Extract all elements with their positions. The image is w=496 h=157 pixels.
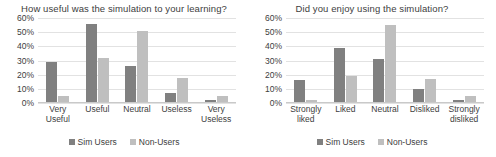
x-axis-tick-label-line: Very [38,104,78,114]
x-axis-tick-label: Stronglydisliked [444,104,484,124]
x-axis-tick-label-line: Strongly [444,104,484,114]
y-axis-tick-label: 40% [17,41,34,51]
x-axis-tick-label-line: Neutral [117,104,157,114]
legend-label: Non-Users [387,137,428,147]
x-axis-tick-label-line: Neutral [365,104,405,114]
y-axis-labels: 0%10%20%30%40%50%60% [2,18,34,103]
y-axis-tick-label: 0% [22,98,34,108]
y-axis-tick-label: 60% [17,13,34,23]
x-axis-line [38,102,236,103]
y-axis-tick-label: 40% [265,41,282,51]
x-axis-tick-label-line: Liked [326,104,366,114]
bar [294,80,305,103]
legend-label: Sim Users [326,137,365,147]
x-axis-tick-label: VeryUseful [38,104,78,124]
legend-swatch-icon [130,139,136,145]
charts-container: How useful was the simulation to your le… [0,0,496,157]
y-axis-labels: 0%10%20%30%40%50%60% [250,18,282,103]
bar [125,66,136,103]
bar-group [326,18,366,103]
x-axis-tick-label: Useful [78,104,118,124]
legend-item[interactable]: Non-Users [378,137,428,147]
x-axis-tick-label: VeryUseless [196,104,236,124]
bar [385,25,396,103]
x-axis-tick-label: Neutral [117,104,157,124]
bar [177,78,188,104]
bar [373,59,384,103]
x-axis-tick-label: Disliked [405,104,445,124]
chart-panel-usefulness: How useful was the simulation to your le… [0,0,248,157]
bar [98,58,109,103]
y-axis-tick-label: 30% [265,56,282,66]
x-axis-labels: StronglylikedLikedNeutralDislikedStrongl… [286,104,484,124]
bar [346,76,357,103]
x-axis-tick-label: Neutral [365,104,405,124]
legend-item[interactable]: Sim Users [317,137,365,147]
y-axis-tick-label: 60% [265,13,282,23]
x-axis-tick-label: Stronglyliked [286,104,326,124]
bar-group [444,18,484,103]
x-axis-tick-label-line: Useful [38,114,78,124]
x-axis-tick-label: Liked [326,104,366,124]
legend-label: Non-Users [139,137,180,147]
x-axis-tick-label-line: Useful [78,104,118,114]
legend-swatch-icon [378,139,384,145]
y-axis-tick-label: 20% [265,70,282,80]
x-axis-line [286,102,484,103]
x-axis-tick-label-line: Strongly [286,104,326,114]
bar-group [38,18,78,103]
chart-panel-enjoyment: Did you enjoy using the simulation? 0%10… [248,0,496,157]
x-axis-tick-label-line: Useless [196,114,236,124]
y-axis-tick-label: 50% [17,27,34,37]
bar-group [157,18,197,103]
chart-legend: Sim UsersNon-Users [0,137,248,147]
y-axis-tick-label: 0% [270,98,282,108]
plot-area [286,18,484,103]
bar-groups [286,18,484,103]
chart-legend: Sim UsersNon-Users [248,137,496,147]
bar [413,89,424,103]
bar-group [78,18,118,103]
bar [425,79,436,103]
bar-group [196,18,236,103]
legend-label: Sim Users [78,137,117,147]
legend-item[interactable]: Sim Users [69,137,117,147]
bar-groups [38,18,236,103]
x-axis-tick-label-line: disliked [444,114,484,124]
legend-item[interactable]: Non-Users [130,137,180,147]
x-axis-tick-label-line: Very [196,104,236,114]
bar-group [405,18,445,103]
y-axis-tick-label: 20% [17,70,34,80]
bar [86,24,97,103]
x-axis-tick-label-line: liked [286,114,326,124]
x-axis-tick-label-line: Disliked [405,104,445,114]
legend-swatch-icon [317,139,323,145]
y-axis-tick-label: 10% [265,84,282,94]
y-axis-tick-label: 50% [265,27,282,37]
y-axis-tick-label: 10% [17,84,34,94]
y-axis-tick-label: 30% [17,56,34,66]
bar [137,31,148,103]
bar [46,62,57,103]
x-axis-tick-label: Useless [157,104,197,124]
bar-group [286,18,326,103]
chart-title: Did you enjoy using the simulation? [248,3,496,14]
bar-group [117,18,157,103]
bar-group [365,18,405,103]
x-axis-tick-label-line: Useless [157,104,197,114]
plot-area [38,18,236,103]
x-axis-labels: VeryUsefulUsefulNeutralUselessVeryUseles… [38,104,236,124]
chart-title: How useful was the simulation to your le… [0,3,248,14]
bar [334,48,345,103]
legend-swatch-icon [69,139,75,145]
